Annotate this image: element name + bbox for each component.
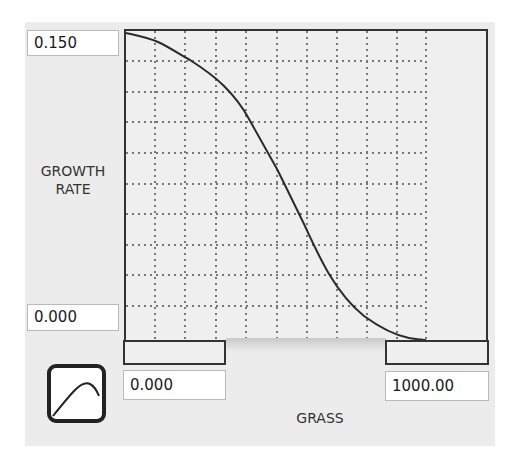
y-max-value: 0.150 <box>34 34 77 52</box>
graph-type-button[interactable] <box>47 364 106 423</box>
y-max-input[interactable]: 0.150 <box>27 30 119 56</box>
y-axis-label-line1: GROWTH <box>26 163 120 181</box>
y-axis-label-line2: RATE <box>26 181 120 199</box>
x-axis-label: GRASS <box>270 410 370 428</box>
x-min-range-handle[interactable] <box>123 340 226 365</box>
x-min-value: 0.000 <box>130 376 173 394</box>
y-min-input[interactable]: 0.000 <box>27 304 119 331</box>
y-axis-label: GROWTH RATE <box>26 163 120 198</box>
grid-lines <box>126 31 426 340</box>
x-max-value: 1000.00 <box>392 377 454 395</box>
x-max-input[interactable]: 1000.00 <box>385 371 489 401</box>
x-min-input[interactable]: 0.000 <box>123 370 226 400</box>
growth-rate-graph[interactable] <box>124 29 488 341</box>
y-min-value: 0.000 <box>34 308 77 326</box>
x-max-range-handle[interactable] <box>385 340 489 365</box>
plot-bottom-edge <box>226 338 386 352</box>
graph-function-icon <box>51 368 102 419</box>
